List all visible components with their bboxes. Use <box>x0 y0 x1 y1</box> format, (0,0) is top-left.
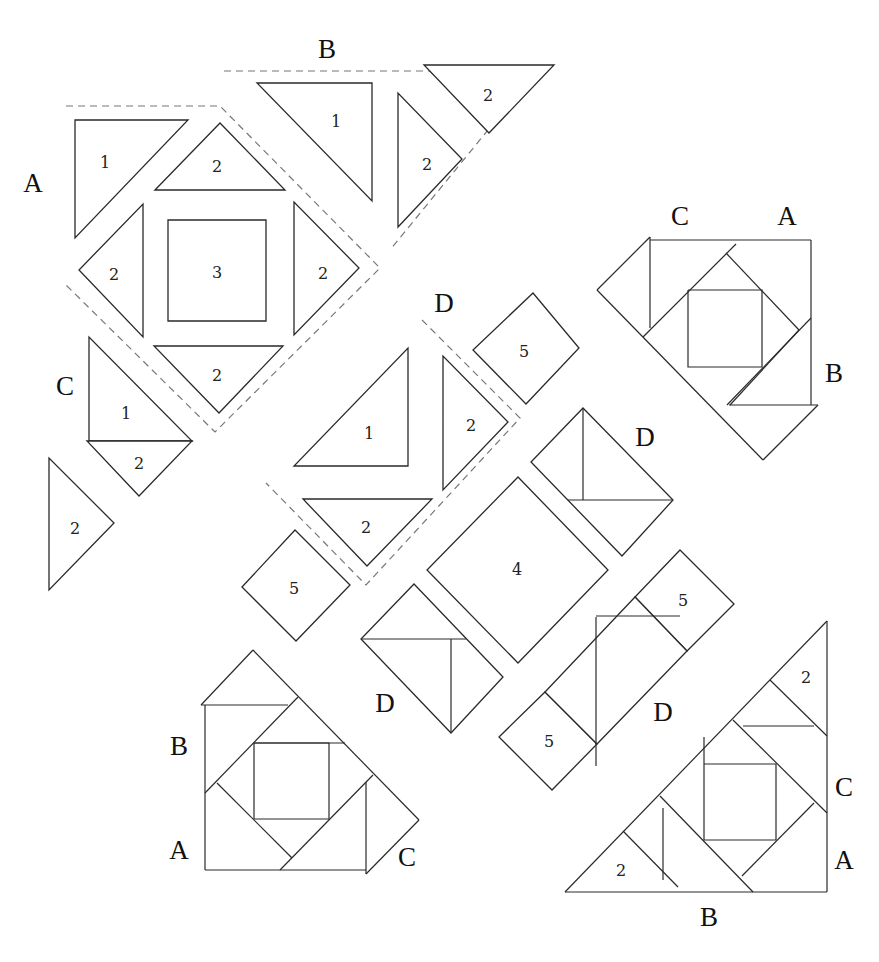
unit-label-d: D <box>653 697 673 727</box>
unit-label-c: C <box>56 371 74 401</box>
block-bottom-left: BAC <box>169 650 419 874</box>
block-seam <box>597 290 763 460</box>
block-top-right: CAB <box>597 201 843 460</box>
block-seam <box>770 680 827 736</box>
piece-number: 2 <box>109 265 119 284</box>
block-seam <box>688 290 762 367</box>
block-seam <box>597 237 650 290</box>
unit-label-a: A <box>23 168 43 198</box>
piece-number: 2 <box>318 264 328 283</box>
block-seam <box>205 697 298 793</box>
block-side-label-a: A <box>834 845 854 875</box>
piece-number: 2 <box>134 454 144 473</box>
block-seam <box>201 650 253 705</box>
piece-number: 2 <box>616 861 626 880</box>
piece-number: 1 <box>121 404 131 423</box>
piece-number: 1 <box>100 153 110 172</box>
unit-label-b: B <box>318 34 336 64</box>
piece-number: 1 <box>364 424 374 443</box>
piece-number: 2 <box>212 157 222 176</box>
block-side-label-b: B <box>170 731 188 761</box>
piece-number: 1 <box>331 112 341 131</box>
triangle-piece-2 <box>49 458 114 590</box>
unit-C: 122C <box>49 337 192 590</box>
block-seam <box>254 743 329 819</box>
block-seam <box>727 318 811 405</box>
quilt-assembly-diagram: 122322A122B122C122D554DD55DCABBACCAB22 <box>0 0 879 962</box>
block-side-label-a: A <box>169 835 189 865</box>
piece-number: 4 <box>512 560 522 579</box>
block-seam <box>763 405 818 460</box>
piece-number: 5 <box>678 591 688 610</box>
block-seam <box>623 831 678 887</box>
unit-B: 122B <box>224 34 554 250</box>
piece-number: 2 <box>483 86 493 105</box>
block-seam <box>253 650 419 820</box>
piece-number: 2 <box>422 155 432 174</box>
piece-number: 5 <box>289 579 299 598</box>
unit-label-d: D <box>434 288 454 318</box>
block-side-label-c: C <box>671 201 689 231</box>
piece-number: 2 <box>801 668 811 687</box>
piece-number: 3 <box>212 263 222 282</box>
block-side-label-b: B <box>700 902 718 932</box>
triangle-piece-1 <box>294 348 408 466</box>
loose-piece-5: 5 <box>473 293 579 404</box>
piece-number: 2 <box>361 518 371 537</box>
block-seam <box>280 775 373 870</box>
block-seam <box>733 720 827 813</box>
block-seam <box>704 764 776 840</box>
piece-number: 5 <box>544 732 554 751</box>
diagram-svg: 122322A122B122C122D554DD55DCABBACCAB22 <box>0 0 879 962</box>
piece-number: 2 <box>70 519 80 538</box>
block-side-label-b: B <box>825 358 843 388</box>
loose-piece-5: 5 <box>242 530 350 641</box>
unit-label-d: D <box>635 422 655 452</box>
piece-number: 2 <box>212 366 222 385</box>
block-seam <box>660 796 753 892</box>
block-side-label-a: A <box>777 201 797 231</box>
piece-number: 2 <box>466 416 476 435</box>
block-side-label-c: C <box>835 772 853 802</box>
block-side-label-c: C <box>398 842 416 872</box>
unit-label-d: D <box>375 688 395 718</box>
piece-number: 5 <box>519 342 529 361</box>
